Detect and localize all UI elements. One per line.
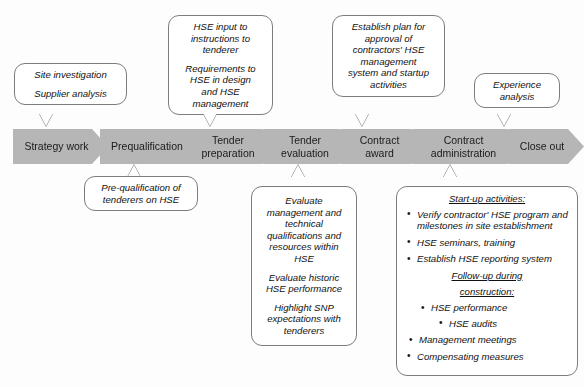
process-step-label: Close out: [520, 140, 564, 153]
process-step-label-line2: administration: [431, 147, 496, 159]
callout-te-para-1: Evaluate management and technical qualif…: [258, 195, 350, 265]
callout-close-out-tail-inner: [497, 113, 511, 126]
callout-tender-evaluation-tail-inner: [291, 165, 305, 178]
callout-ca2-list: Verify contractor' HSE program and miles…: [405, 209, 569, 363]
callout-contract-administration-tail-inner: [443, 165, 457, 178]
callout-tp-para-2: Requirements to HSE in design and HSE ma…: [175, 63, 266, 109]
list-item: HSE audits: [405, 318, 569, 330]
process-step-label-line2: award: [365, 147, 394, 159]
callout-contract-award: Establish plan for approval of contracto…: [332, 15, 445, 97]
callout-tp-p2-l4: management: [193, 98, 249, 109]
callout-te-p1-l6: HSE: [294, 253, 314, 264]
callout-contract-administration: Start-up activities: Verify contractor' …: [396, 186, 578, 376]
callout-ca-l4: management: [361, 56, 417, 67]
callout-te-para-3: Highlight SNP expectations with tenderer…: [258, 302, 350, 337]
callout-te-p1-l3: technical: [285, 218, 323, 229]
diagram-canvas: Site investigation Supplier analysis HSE…: [0, 0, 584, 387]
callout-ca2-subheading-line1: Follow-up during: [405, 270, 569, 282]
list-item: Verify contractor' HSE program and miles…: [405, 209, 569, 232]
process-step-label-line2: preparation: [201, 147, 254, 159]
callout-tp-p1-l2: instructions to: [191, 33, 250, 44]
callout-tender-preparation-tail-inner: [203, 113, 217, 126]
list-item: Establish HSE reporting system: [405, 253, 569, 265]
process-step-label: Prequalification: [111, 140, 183, 153]
process-step-label: Strategy work: [24, 140, 88, 153]
callout-strategy-work: Site investigation Supplier analysis: [14, 63, 127, 105]
callout-prequalification: Pre-qualification of tenderers on HSE: [84, 176, 198, 211]
callout-pq-l2: tenderers on HSE: [103, 194, 179, 205]
callout-strategy-tail-inner: [39, 113, 53, 126]
callout-tp-p1-l1: HSE input to: [194, 21, 248, 32]
callout-te-p3-l2: expectations with: [267, 313, 341, 324]
callout-co-l1: Experience: [493, 79, 541, 90]
callout-te-para-2: Evaluate historic HSE performance: [258, 272, 350, 295]
callout-te-p1-l2: management and: [267, 207, 342, 218]
list-item: HSE performance: [405, 302, 569, 314]
callout-tender-evaluation: Evaluate management and technical qualif…: [251, 186, 357, 346]
callout-co-l2: analysis: [500, 91, 535, 102]
callout-ca-l1: Establish plan for: [352, 21, 426, 32]
process-step-contract-administration[interactable]: Contract administration: [412, 129, 523, 164]
callout-contract-award-tail-inner: [355, 113, 369, 126]
callout-te-p1-l1: Evaluate: [285, 195, 322, 206]
callout-tp-para-1: HSE input to instructions to tenderer: [175, 21, 266, 56]
callout-close-out: Experience analysis: [474, 73, 560, 108]
process-step-label-line1: Tender: [289, 134, 321, 146]
process-step-strategy-work[interactable]: Strategy work: [13, 129, 108, 164]
callout-ca2-heading: Start-up activities:: [405, 193, 569, 205]
callout-ca-l5: system and startup: [348, 67, 429, 78]
callout-ca-l3: contractors' HSE: [353, 44, 425, 55]
callout-ca2-subheading: Follow-up during construction:: [405, 270, 569, 297]
callout-ca-l2: approval of: [365, 33, 412, 44]
list-item: Management meetings: [405, 334, 569, 346]
callout-tender-preparation: HSE input to instructions to tenderer Re…: [168, 15, 273, 115]
callout-te-p1-l4: qualifications and: [267, 230, 341, 241]
callout-te-p2-l2: HSE performance: [266, 283, 342, 294]
callout-ca-para: Establish plan for approval of contracto…: [339, 21, 438, 91]
list-item: HSE seminars, training: [405, 237, 569, 249]
callout-pq-para: Pre-qualification of tenderers on HSE: [91, 182, 191, 205]
process-step-label-line1: Tender: [212, 134, 244, 146]
process-step-label: Tender evaluation: [281, 134, 329, 159]
callout-pq-l1: Pre-qualification of: [101, 182, 180, 193]
process-step-close-out[interactable]: Close out: [508, 129, 584, 164]
callout-tp-p2-l1: Requirements to: [185, 63, 255, 74]
callout-te-p1-l5: resources within: [269, 241, 338, 252]
process-step-label-line1: Contract: [444, 134, 484, 146]
callout-te-p2-l1: Evaluate historic: [269, 272, 339, 283]
callout-strategy-line-1: Site investigation: [21, 69, 120, 81]
callout-co-para: Experience analysis: [481, 79, 553, 102]
callout-ca2-subheading-line2: construction:: [405, 286, 569, 298]
callout-tp-p2-l2: HSE in design: [190, 74, 251, 85]
callout-ca-l6: activities: [370, 79, 407, 90]
process-step-label: Contract administration: [431, 134, 496, 159]
callout-te-p3-l1: Highlight SNP: [274, 302, 334, 313]
callout-te-p3-l3: tenderers: [284, 325, 325, 336]
process-step-label: Contract award: [360, 134, 400, 159]
callout-tp-p1-l3: tenderer: [203, 44, 239, 55]
process-step-label-line2: evaluation: [281, 147, 329, 159]
callout-tp-p2-l3: and HSE: [201, 86, 239, 97]
list-item: Compensating measures: [405, 351, 569, 363]
process-step-label-line1: Contract: [360, 134, 400, 146]
process-step-label: Tender preparation: [201, 134, 254, 159]
callout-strategy-line-2: Supplier analysis: [21, 88, 120, 100]
